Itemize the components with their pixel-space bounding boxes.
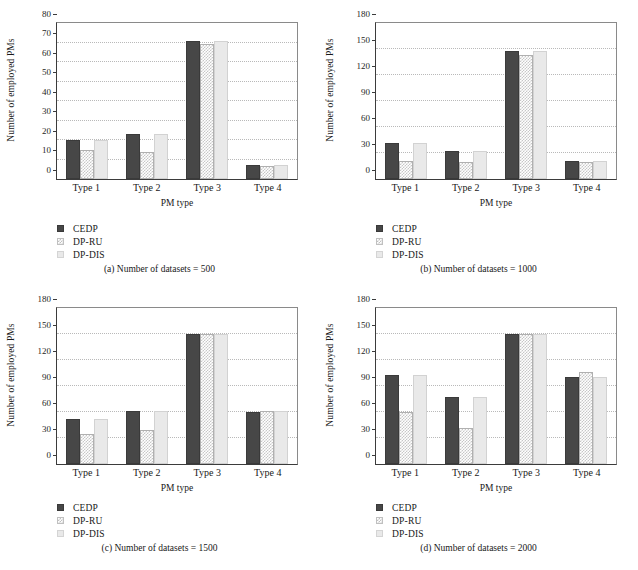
legend-item-cedp[interactable]: CEDP <box>57 222 105 235</box>
x-tick-label: Type 4 <box>254 182 281 193</box>
bar-group <box>66 23 108 179</box>
legend-label: DP-DIS <box>73 250 105 260</box>
bar-dpru <box>260 166 274 179</box>
bar-dpru <box>260 411 274 464</box>
x-tick-label: Type 4 <box>254 467 281 478</box>
bar-cedp <box>505 334 519 464</box>
legend-item-dpdis[interactable]: DP-DIS <box>57 248 105 261</box>
caption-a: (a) Number of datasets = 500 <box>0 264 319 274</box>
legend-item-dpdis[interactable]: DP-DIS <box>376 527 424 540</box>
bar-dpru <box>579 372 593 464</box>
y-tick-label: 60 <box>5 48 57 58</box>
y-tick-label: 90 <box>5 372 57 382</box>
legend-item-cedp[interactable]: CEDP <box>376 222 424 235</box>
bar-dpru <box>399 412 413 464</box>
bar-group <box>246 308 288 464</box>
x-tick-label: Type 3 <box>194 182 221 193</box>
y-tick-label: 30 <box>5 106 57 116</box>
y-tick-label: 30 <box>324 139 376 149</box>
legend-item-dpru[interactable]: DP-RU <box>57 514 105 527</box>
bar-cedp <box>126 134 140 179</box>
bar-dpru <box>579 162 593 179</box>
y-tick-label: 0 <box>5 450 57 460</box>
bar-dpdis <box>533 334 547 464</box>
bar-cedp <box>186 41 200 179</box>
axis-frame-a: 01020304050607080 <box>56 22 298 180</box>
x-tick-labels-d: Type 1Type 2Type 3Type 4 <box>375 467 617 478</box>
legend-swatch-icon <box>376 517 383 524</box>
bar-cedp <box>126 411 140 464</box>
bar-cedp <box>565 377 579 464</box>
legend-swatch-icon <box>376 238 383 245</box>
legend-swatch-icon <box>57 251 64 258</box>
y-tick-label: 120 <box>324 61 376 71</box>
x-tick-label: Type 3 <box>513 467 540 478</box>
y-tick-label: 50 <box>5 67 57 77</box>
bar-dpdis <box>274 165 288 179</box>
legend-item-dpdis[interactable]: DP-DIS <box>376 248 424 261</box>
y-tick-label: 80 <box>5 9 57 19</box>
bar-group <box>445 308 487 464</box>
legend-item-cedp[interactable]: CEDP <box>57 501 105 514</box>
legend-label: DP-RU <box>392 237 422 247</box>
bar-dpdis <box>154 411 168 464</box>
bar-dpdis <box>593 377 607 464</box>
bar-group <box>565 308 607 464</box>
bar-dpru <box>399 161 413 179</box>
legend-swatch-icon <box>57 517 64 524</box>
x-tick-label: Type 3 <box>513 182 540 193</box>
bar-group <box>445 23 487 179</box>
x-axis-label-a: PM type <box>56 198 298 208</box>
bar-dpdis <box>413 143 427 179</box>
bar-dpru <box>200 44 214 179</box>
x-tick-labels-b: Type 1Type 2Type 3Type 4 <box>375 182 617 193</box>
y-tick-label: 60 <box>324 398 376 408</box>
y-tick-label: 90 <box>324 372 376 382</box>
y-tick-label: 0 <box>324 450 376 460</box>
legend-swatch-icon <box>57 238 64 245</box>
bar-group <box>246 23 288 179</box>
x-tick-labels-c: Type 1Type 2Type 3Type 4 <box>56 467 298 478</box>
legend-item-dpru[interactable]: DP-RU <box>376 235 424 248</box>
bar-group <box>505 308 547 464</box>
x-tick-label: Type 1 <box>392 467 419 478</box>
legend-label: CEDP <box>73 224 98 234</box>
legend-swatch-icon <box>376 530 383 537</box>
legend-item-cedp[interactable]: CEDP <box>376 501 424 514</box>
y-tick-label: 90 <box>324 87 376 97</box>
bar-group <box>126 308 168 464</box>
bar-dpdis <box>154 134 168 179</box>
x-tick-label: Type 4 <box>573 182 600 193</box>
axis-frame-b: 0306090120150180 <box>375 22 617 180</box>
bar-cedp <box>505 51 519 179</box>
y-tick-label: 120 <box>5 346 57 356</box>
y-tick-label: 0 <box>324 165 376 175</box>
legend-label: CEDP <box>392 503 417 513</box>
legend-c: CEDPDP-RUDP-DIS <box>57 501 105 540</box>
bar-cedp <box>445 151 459 179</box>
x-tick-label: Type 2 <box>133 467 160 478</box>
y-tick-label: 60 <box>5 398 57 408</box>
x-tick-label: Type 1 <box>73 467 100 478</box>
caption-d: (d) Number of datasets = 2000 <box>319 543 638 553</box>
legend-item-dpru[interactable]: DP-RU <box>376 514 424 527</box>
bar-dpru <box>519 55 533 179</box>
legend-label: DP-RU <box>392 516 422 526</box>
x-tick-label: Type 1 <box>73 182 100 193</box>
y-tick-label: 180 <box>324 9 376 19</box>
legend-a: CEDPDP-RUDP-DIS <box>57 222 105 261</box>
legend-item-dpru[interactable]: DP-RU <box>57 235 105 248</box>
bar-cedp <box>445 397 459 464</box>
legend-item-dpdis[interactable]: DP-DIS <box>57 527 105 540</box>
plot-area-b: Number of employed PMs 0306090120150180 … <box>319 0 638 200</box>
y-tick-label: 10 <box>5 145 57 155</box>
bar-dpru <box>459 428 473 464</box>
bar-dpdis <box>533 51 547 179</box>
legend-label: DP-DIS <box>73 529 105 539</box>
bar-group <box>385 308 427 464</box>
bar-dpdis <box>473 151 487 179</box>
figure-grid: Number of employed PMs 01020304050607080… <box>0 0 638 570</box>
bar-dpdis <box>94 140 108 179</box>
axis-frame-d: 0306090120150180 <box>375 307 617 465</box>
legend-swatch-icon <box>57 504 64 511</box>
